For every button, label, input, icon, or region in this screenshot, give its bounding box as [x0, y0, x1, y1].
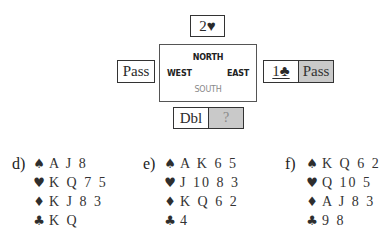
- hand-d-hearts-row: ♥ K Q 7 5: [12, 173, 108, 192]
- heart-icon: ♥: [305, 173, 319, 192]
- hand-d-diamonds-row: ♦ K J 8 3: [12, 192, 108, 211]
- diamond-icon: ♦: [163, 192, 177, 211]
- compass-table: NORTH WEST EAST SOUTH: [159, 44, 257, 102]
- diamond-cards: K Q 6 2: [180, 192, 239, 211]
- compass-north-label: NORTH: [160, 53, 256, 62]
- heart-cards: J 10 8 3: [180, 173, 240, 192]
- club-cards: K Q: [49, 211, 79, 230]
- club-cards: 9 8: [322, 211, 346, 230]
- club-icon: ♣: [305, 211, 319, 230]
- club-icon: ♣: [163, 211, 177, 230]
- hand-e-clubs-row: ♣ 4: [143, 211, 240, 230]
- diamond-cards: A J 8 3: [322, 192, 375, 211]
- diamond-icon: ♦: [305, 192, 319, 211]
- heart-cards: K Q 7 5: [49, 173, 108, 192]
- east-bid-box: 1♣ Pass: [263, 60, 334, 83]
- east-bid-alerted: 1♣: [264, 61, 298, 82]
- east-bid-pass: Pass: [298, 61, 333, 82]
- hand-f-diamonds-row: ♦ A J 8 3: [285, 192, 381, 211]
- compass-south-label: SOUTH: [160, 85, 256, 94]
- hand-e-spades-row: e) ♠ A K 6 5: [143, 154, 240, 173]
- club-icon: ♣: [32, 211, 46, 230]
- heart-icon: ♥: [163, 173, 177, 192]
- spade-cards: K Q 6 2: [322, 154, 381, 173]
- spade-icon: ♠: [163, 154, 177, 173]
- hand-f: f) ♠ K Q 6 2 ♥ Q 10 5 ♦ A J 8 3 ♣ 9 8: [285, 154, 381, 230]
- diamond-icon: ♦: [32, 192, 46, 211]
- hand-label: e): [143, 154, 163, 173]
- west-bid-box: Pass: [117, 60, 155, 83]
- hand-d-spades-row: d) ♠ A J 8: [12, 154, 108, 173]
- hand-f-spades-row: f) ♠ K Q 6 2: [285, 154, 381, 173]
- hand-label: f): [285, 154, 305, 173]
- west-bid: Pass: [118, 61, 154, 82]
- diamond-cards: K J 8 3: [49, 192, 103, 211]
- hand-label: d): [12, 154, 32, 173]
- hand-e-diamonds-row: ♦ K Q 6 2: [143, 192, 240, 211]
- compass-west-label: WEST: [167, 69, 192, 78]
- heart-icon: ♥: [32, 173, 46, 192]
- spade-icon: ♠: [32, 154, 46, 173]
- club-cards: 4: [180, 211, 189, 230]
- south-bid-double: Dbl: [174, 108, 208, 128]
- south-bid-question: ?: [208, 108, 243, 128]
- north-bid-box: 2♥: [190, 15, 225, 37]
- south-bid-box: Dbl ?: [173, 107, 244, 129]
- hand-f-hearts-row: ♥ Q 10 5: [285, 173, 381, 192]
- spade-cards: A K 6 5: [180, 154, 238, 173]
- north-bid: 2♥: [191, 16, 224, 36]
- spade-icon: ♠: [305, 154, 319, 173]
- hand-d: d) ♠ A J 8 ♥ K Q 7 5 ♦ K J 8 3 ♣ K Q: [12, 154, 108, 230]
- hand-e-hearts-row: ♥ J 10 8 3: [143, 173, 240, 192]
- compass-east-label: EAST: [227, 69, 249, 78]
- hand-e: e) ♠ A K 6 5 ♥ J 10 8 3 ♦ K Q 6 2 ♣ 4: [143, 154, 240, 230]
- hand-d-clubs-row: ♣ K Q: [12, 211, 108, 230]
- heart-cards: Q 10 5: [322, 173, 372, 192]
- hand-f-clubs-row: ♣ 9 8: [285, 211, 381, 230]
- spade-cards: A J 8: [49, 154, 88, 173]
